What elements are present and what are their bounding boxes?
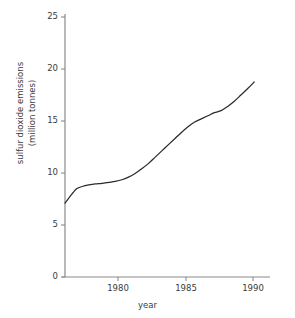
x-axis-title: year [0,300,295,310]
chart-figure: 0 5 10 15 20 25 1980 1985 1990 sulfur di… [0,0,295,318]
x-tick-label-1985: 1985 [166,283,206,293]
emissions-line-series [65,82,254,203]
y-axis-title-line1: sulfur dioxide emissions [15,33,27,193]
x-tick-label-1980: 1980 [98,283,138,293]
y-axis-title-line2: (million tonnes) [27,33,39,193]
y-tick-label-25: 25 [36,11,58,21]
y-tick-label-0: 0 [36,271,58,281]
chart-title-fragment [112,0,182,2]
y-tick-label-5: 5 [36,219,58,229]
y-axis-title: sulfur dioxide emissions (million tonnes… [15,33,41,193]
x-tick-label-1990: 1990 [233,283,273,293]
